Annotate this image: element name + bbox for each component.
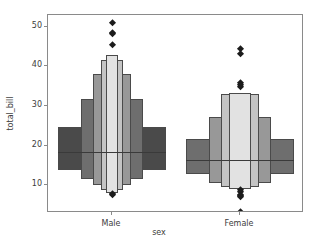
y-tick-label: 20 [2,141,42,149]
median-line [186,160,294,161]
y-tick-label: 50 [2,22,42,30]
y-tick-label: 40 [2,61,42,69]
x-tick-mark [111,212,112,215]
chart-figure: total_bill 1020304050 MaleFemale sex [0,0,318,248]
plot-area [47,14,303,212]
outlier-point [236,50,243,57]
y-tick-label: 30 [2,101,42,109]
x-tick-label: Male [102,219,121,228]
outlier-point [236,208,243,212]
x-axis-label: sex [0,228,318,237]
x-tick-mark [239,212,240,215]
y-tick-label: 10 [2,180,42,188]
boxen-level-4[interactable] [229,93,251,189]
y-axis-label: total_bill [6,84,15,144]
boxen-group-female[interactable] [48,15,303,211]
outlier-point [236,194,243,201]
x-tick-label: Female [225,219,254,228]
